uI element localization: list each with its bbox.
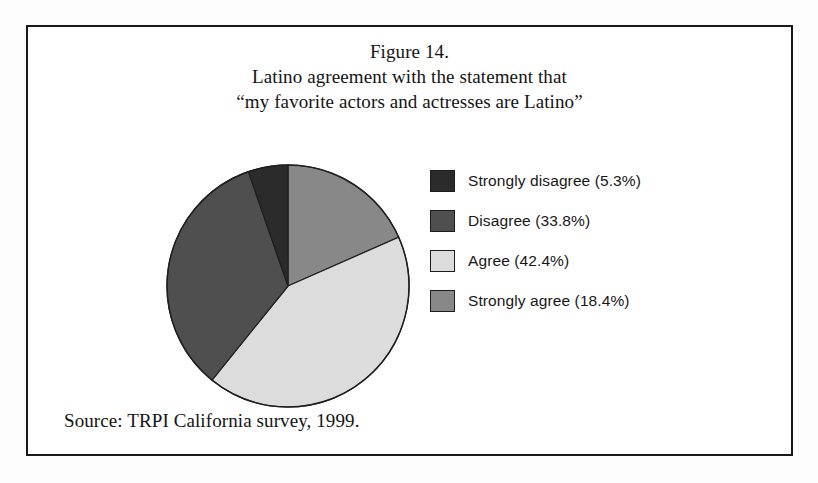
legend-swatch-icon-agree bbox=[430, 250, 455, 272]
legend-label-strongly-agree: Strongly agree (18.4%) bbox=[468, 292, 630, 310]
figure-border-frame: Figure 14. Latino agreement with the sta… bbox=[26, 25, 793, 456]
legend-swatch-icon-disagree bbox=[430, 210, 455, 232]
legend-item-agree: Agree (42.4%) bbox=[430, 241, 770, 281]
legend-swatch-icon-strongly-agree bbox=[430, 290, 455, 312]
figure-caption: Figure 14. Latino agreement with the sta… bbox=[28, 39, 791, 114]
caption-line-statement-2: “my favorite actors and actresses are La… bbox=[28, 89, 791, 114]
caption-line-statement-1: Latino agreement with the statement that bbox=[28, 64, 791, 89]
pie-slice-group bbox=[167, 165, 409, 407]
chart-legend: Strongly disagree (5.3%) Disagree (33.8%… bbox=[430, 161, 770, 321]
figure-page: Figure 14. Latino agreement with the sta… bbox=[0, 0, 818, 483]
legend-item-disagree: Disagree (33.8%) bbox=[430, 201, 770, 241]
source-note: Source: TRPI California survey, 1999. bbox=[64, 410, 360, 432]
legend-item-strongly-disagree: Strongly disagree (5.3%) bbox=[430, 161, 770, 201]
pie-chart bbox=[141, 139, 435, 433]
pie-chart-svg bbox=[141, 139, 435, 433]
legend-item-strongly-agree: Strongly agree (18.4%) bbox=[430, 281, 770, 321]
legend-label-strongly-disagree: Strongly disagree (5.3%) bbox=[468, 172, 641, 190]
legend-swatch-icon-strongly-disagree bbox=[430, 170, 455, 192]
caption-line-number: Figure 14. bbox=[28, 39, 791, 64]
legend-label-agree: Agree (42.4%) bbox=[468, 252, 569, 270]
legend-label-disagree: Disagree (33.8%) bbox=[468, 212, 590, 230]
